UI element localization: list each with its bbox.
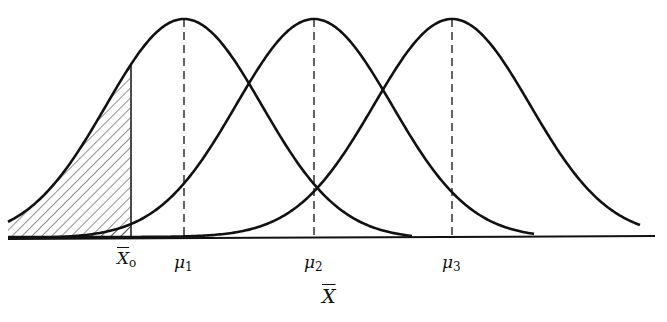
mu3-label: μ3 (442, 252, 461, 274)
axis-label: X (322, 285, 336, 307)
xo-sub: o (129, 256, 136, 270)
mu3-sub: 3 (453, 260, 461, 274)
mu2-label: μ2 (304, 252, 323, 274)
critical-value-label: Xo (117, 248, 136, 270)
mu1-main: μ (174, 252, 185, 272)
axis-label-text: X (322, 285, 336, 307)
mu2-main: μ (304, 252, 315, 272)
mu2-sub: 2 (315, 260, 323, 274)
normal-curves-diagram (0, 0, 667, 322)
mu1-label: μ1 (174, 252, 193, 274)
mu3-main: μ (442, 252, 453, 272)
xo-main: X (117, 248, 129, 268)
mu1-sub: 1 (185, 260, 193, 274)
